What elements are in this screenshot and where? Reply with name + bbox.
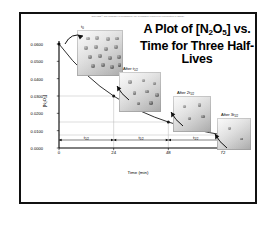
molecule-particle bbox=[91, 64, 95, 68]
box-t-half-caption: After t1/2 bbox=[123, 66, 138, 72]
molecule-particle bbox=[240, 138, 243, 141]
molecule-particle bbox=[118, 63, 122, 67]
molecule-particle bbox=[133, 91, 137, 95]
molecule-particle bbox=[117, 55, 121, 59]
title-part-end: ] vs. bbox=[227, 22, 251, 36]
molecule-particle bbox=[101, 63, 105, 67]
title-part-1: A Plot of [N bbox=[143, 22, 208, 36]
title-part-o: O bbox=[213, 22, 223, 36]
molecule-particle bbox=[115, 37, 119, 41]
box-3t-half-caption: After 3t1/2 bbox=[221, 112, 238, 118]
half-life-label: t1/2 bbox=[193, 135, 198, 141]
cube-face bbox=[119, 72, 161, 112]
box-t0 bbox=[77, 30, 123, 76]
molecule-particle bbox=[128, 80, 132, 84]
molecule-particle bbox=[142, 79, 146, 83]
caption-subscript: 1/2 bbox=[190, 92, 194, 96]
molecule-particle bbox=[106, 37, 110, 41]
half-life-subscript: 1/2 bbox=[140, 137, 144, 141]
molecule-particle bbox=[95, 36, 99, 40]
molecule-particle bbox=[153, 82, 157, 86]
x-tick-label: 24 bbox=[111, 150, 116, 155]
molecule-particle bbox=[94, 45, 98, 49]
x-tick-label: 72 bbox=[221, 150, 226, 155]
molecule-particle bbox=[228, 127, 231, 130]
caption-text: After t bbox=[123, 66, 134, 71]
cube-face bbox=[173, 96, 211, 132]
box-t0-caption: t0 bbox=[81, 24, 84, 30]
y-tick-label: 0.0100 bbox=[30, 128, 43, 133]
molecule-particle bbox=[104, 47, 108, 51]
molecule-particle bbox=[188, 117, 191, 120]
y-tick-label: 0.0200 bbox=[30, 111, 43, 116]
box-2t-half-caption: After 2t1/2 bbox=[177, 90, 194, 96]
molecule-particle bbox=[201, 115, 204, 118]
box-t-half bbox=[119, 72, 161, 112]
x-tick-label: 48 bbox=[166, 150, 171, 155]
molecule-particle bbox=[86, 37, 90, 41]
molecule-particle bbox=[88, 55, 92, 59]
half-life-label: t1/2 bbox=[138, 135, 143, 141]
caption-text: After 2t bbox=[177, 90, 190, 95]
half-life-subscript: 1/2 bbox=[85, 137, 89, 141]
molecule-particle bbox=[84, 46, 88, 50]
caption-subscript: 1/2 bbox=[234, 114, 238, 118]
molecule-particle bbox=[137, 102, 141, 106]
molecule-particle bbox=[114, 45, 118, 49]
molecule-particle bbox=[183, 105, 186, 108]
y-tick-label: 0.0400 bbox=[30, 76, 43, 81]
cube-face bbox=[217, 118, 251, 150]
copyright-notice: Copyright © The McGraw-Hill Companies, I… bbox=[21, 15, 255, 18]
box-3t-half bbox=[217, 118, 251, 150]
half-life-label: t1/2 bbox=[84, 135, 89, 141]
molecule-particle bbox=[198, 103, 201, 106]
caption-text: After 3t bbox=[221, 112, 234, 117]
y-tick-label: 0.0600 bbox=[30, 42, 43, 47]
x-tick-label: 0 bbox=[58, 150, 60, 155]
caption-subscript: 0 bbox=[82, 26, 84, 30]
y-tick-label: 0.0000 bbox=[30, 146, 43, 151]
cube-face bbox=[77, 30, 123, 76]
caption-subscript: 1/2 bbox=[134, 68, 138, 72]
half-life-subscript: 1/2 bbox=[194, 137, 198, 141]
molecule-particle bbox=[149, 101, 153, 105]
molecule-particle bbox=[110, 65, 114, 69]
molecule-particle bbox=[98, 54, 102, 58]
molecule-particle bbox=[108, 56, 112, 60]
y-tick-label: 0.0500 bbox=[30, 59, 43, 64]
figure-panel: Copyright © The McGraw-Hill Companies, I… bbox=[19, 12, 257, 204]
box-2t-half bbox=[173, 96, 211, 132]
y-tick-label: 0.0300 bbox=[30, 94, 43, 99]
molecule-particle bbox=[145, 90, 149, 94]
molecule-particle bbox=[155, 93, 159, 97]
